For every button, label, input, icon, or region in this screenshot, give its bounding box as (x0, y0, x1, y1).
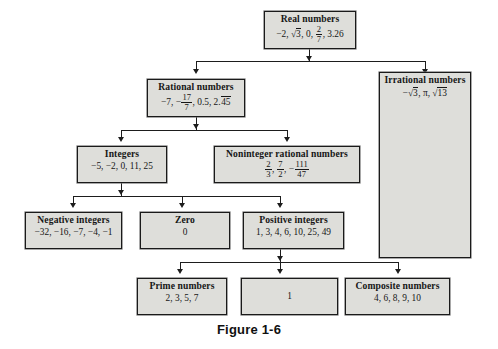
node-prime-numbers[interactable]: Prime numbers 2, 3, 5, 7 (137, 278, 227, 315)
node-positive-integers[interactable]: Positive integers 1, 3, 4, 6, 10, 25, 49 (243, 212, 344, 249)
arrowhead-one (277, 269, 283, 274)
arrowhead-positive-bus (277, 256, 283, 261)
figure-caption: Figure 1-6 (0, 322, 498, 337)
node-items: −2, √3, 0, 27, 3.26 (269, 26, 351, 45)
connector-bus-tier2 (121, 130, 287, 131)
connector-bus-tier3 (73, 196, 280, 197)
connector-bus-tier1 (196, 61, 425, 62)
arrowhead-noninteger (284, 137, 290, 142)
node-integers[interactable]: Integers −5, −2, 0, 11, 25 (77, 146, 167, 183)
node-title: Real numbers (269, 14, 351, 25)
node-items: −√3, π, √13 (384, 88, 466, 99)
node-rational-numbers[interactable]: Rational numbers −7, −177, 0.5, 2.45 (147, 79, 245, 117)
node-noninteger-rational-numbers[interactable]: Noninteger rational numbers 23, 72, −111… (214, 146, 360, 183)
node-items: 0 (145, 227, 225, 238)
node-one[interactable]: 1 (241, 278, 338, 315)
node-irrational-numbers[interactable]: Irrational numbers −√3, π, √13 (379, 72, 471, 258)
arrowhead-integers-bus (118, 190, 124, 195)
arrowhead-negative (70, 203, 76, 208)
node-zero[interactable]: Zero 0 (140, 212, 230, 249)
node-title: Composite numbers (350, 281, 445, 292)
node-title: Positive integers (248, 215, 339, 226)
node-items: 23, 72, −11147 (219, 161, 355, 180)
fraction-17-7: 177 (181, 93, 192, 112)
node-items: −7, −177, 0.5, 2.45 (152, 94, 240, 113)
node-title: Zero (145, 215, 225, 226)
node-items: −32, −16, −7, −4, −1 (30, 227, 117, 238)
node-title: Irrational numbers (384, 75, 466, 86)
arrowhead-positive (277, 203, 283, 208)
node-title: Negative integers (30, 215, 117, 226)
repeating-decimal-bar: 45 (221, 96, 231, 107)
node-title: Prime numbers (142, 281, 222, 292)
fraction-2-3: 23 (265, 160, 271, 179)
arrowhead-rational-bus (193, 124, 199, 129)
node-items: 2, 3, 5, 7 (142, 293, 222, 304)
arrowhead-zero (179, 203, 185, 208)
node-composite-numbers[interactable]: Composite numbers 4, 6, 8, 9, 10 (345, 278, 450, 315)
fraction-7-2: 72 (277, 160, 283, 179)
node-real-numbers[interactable]: Real numbers −2, √3, 0, 27, 3.26 (264, 11, 356, 49)
node-title: Integers (82, 149, 162, 160)
arrowhead-prime (177, 269, 183, 274)
node-items: 4, 6, 8, 9, 10 (350, 293, 445, 304)
node-negative-integers[interactable]: Negative integers −32, −16, −7, −4, −1 (25, 212, 122, 249)
node-title: Noninteger rational numbers (219, 149, 355, 160)
arrowhead-real-bus (306, 56, 312, 61)
node-items: −5, −2, 0, 11, 25 (82, 161, 162, 172)
arrowhead-composite (395, 269, 401, 274)
connector-bus-tier4 (180, 262, 398, 263)
node-items: 1, 3, 4, 6, 10, 25, 49 (248, 227, 339, 238)
arrowhead-integers (118, 137, 124, 142)
fraction-2-7: 27 (316, 25, 322, 44)
arrowhead-rational (193, 69, 199, 74)
node-title: Rational numbers (152, 82, 240, 93)
node-items: 1 (287, 291, 292, 302)
figure-diagram: Real numbers −2, √3, 0, 27, 3.26 Rationa… (0, 0, 498, 349)
fraction-111-47: 11147 (295, 160, 309, 179)
